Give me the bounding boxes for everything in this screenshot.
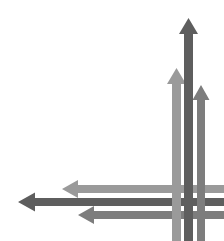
diagram-canvas [0,0,224,241]
weave-cell-left-light-over-up-light [172,185,181,193]
weave-cell-left-dark-over-up-dark [184,198,193,206]
weave-cell-left-medium-over-up-medium [197,211,205,219]
arrows-illustration [0,0,224,241]
